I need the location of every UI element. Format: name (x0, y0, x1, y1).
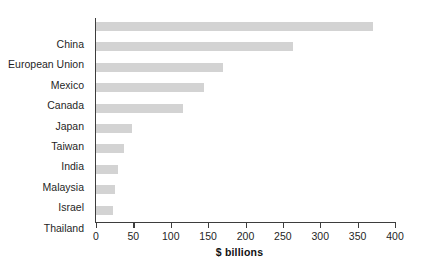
x-axis-title-text: $ billions (158, 246, 264, 258)
bar (96, 165, 118, 174)
bar (96, 124, 132, 133)
x-tick-mark (96, 223, 97, 228)
category-label: Malaysia (0, 182, 90, 192)
bar (96, 22, 373, 31)
bar (96, 83, 204, 92)
x-tick-mark (395, 223, 396, 228)
bar-chart-figure: ChinaEuropean UnionMexicoCanadaJapanTaiw… (0, 0, 421, 268)
x-tick-mark (133, 223, 134, 228)
x-tick-label: 300 (300, 230, 340, 242)
x-tick-label: 200 (226, 230, 266, 242)
x-tick-mark (358, 223, 359, 228)
bar (96, 144, 124, 153)
x-tick-label: 250 (263, 230, 303, 242)
category-label: Canada (0, 100, 90, 110)
bar (96, 185, 115, 194)
x-tick-label: 50 (113, 230, 153, 242)
x-tick-label: 0 (76, 230, 116, 242)
x-tick-label: 150 (188, 230, 228, 242)
bar (96, 104, 183, 113)
x-tick-mark (246, 223, 247, 228)
x-tick-mark (283, 223, 284, 228)
category-label: Mexico (0, 80, 90, 90)
x-tick-label: 400 (375, 230, 415, 242)
x-tick-mark (208, 223, 209, 228)
category-label: China (0, 39, 90, 49)
bar (96, 206, 113, 215)
category-label: India (0, 161, 90, 171)
x-tick-label: 350 (338, 230, 378, 242)
category-label: Japan (0, 121, 90, 131)
y-axis-category-labels: ChinaEuropean UnionMexicoCanadaJapanTaiw… (0, 18, 90, 222)
category-label: Israel (0, 202, 90, 212)
x-tick-mark (171, 223, 172, 228)
x-tick-mark (320, 223, 321, 228)
bar (96, 42, 293, 51)
category-label: Taiwan (0, 141, 90, 151)
category-label: European Union (0, 59, 90, 69)
x-tick-label: 100 (151, 230, 191, 242)
bar (96, 63, 223, 72)
x-axis-title: $ billions (0, 246, 421, 258)
